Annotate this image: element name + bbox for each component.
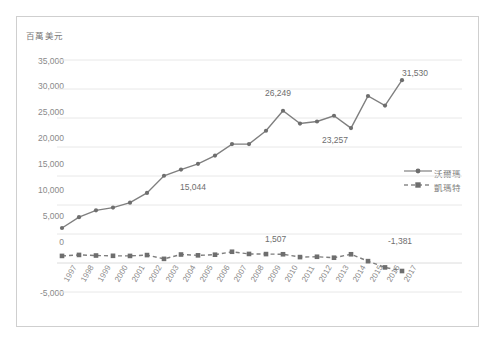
data-point-marker xyxy=(213,252,218,257)
data-point-marker xyxy=(196,253,201,258)
legend-marker-kmart xyxy=(415,182,420,187)
data-point-marker xyxy=(383,103,387,107)
data-point-marker xyxy=(162,174,166,178)
data-point-marker xyxy=(332,255,337,260)
data-point-marker xyxy=(162,257,167,262)
data-point-marker xyxy=(315,119,319,123)
data-point-marker xyxy=(230,249,235,254)
data-point-marker xyxy=(298,121,302,125)
chart-figure: 百萬美元 35,000 30,000 25,000 20,000 15,000 … xyxy=(0,0,495,343)
data-point-marker xyxy=(383,265,388,270)
data-point-marker xyxy=(128,254,133,259)
data-point-marker xyxy=(145,191,149,195)
data-point-marker xyxy=(94,253,99,258)
data-point-marker xyxy=(230,142,234,146)
data-point-marker xyxy=(332,114,336,118)
data-point-marker xyxy=(77,215,81,219)
chart-plot-area xyxy=(0,0,495,343)
data-point-marker xyxy=(247,252,252,257)
gridlines xyxy=(57,60,462,292)
data-point-marker xyxy=(77,253,82,258)
data-point-marker xyxy=(281,252,286,257)
data-point-marker xyxy=(349,126,353,130)
data-point-marker xyxy=(179,167,183,171)
data-point-marker xyxy=(349,252,354,257)
data-point-marker xyxy=(111,205,115,209)
data-point-marker xyxy=(400,78,404,82)
data-point-marker xyxy=(366,259,371,264)
data-point-marker xyxy=(128,201,132,205)
data-point-marker xyxy=(213,153,217,157)
data-point-marker xyxy=(366,94,370,98)
data-point-marker xyxy=(400,269,405,274)
data-point-marker xyxy=(111,254,116,259)
legend-marker-walmart xyxy=(416,169,421,174)
data-point-marker xyxy=(264,129,268,133)
data-point-marker xyxy=(298,255,303,260)
data-point-marker xyxy=(247,142,251,146)
data-point-marker xyxy=(264,252,269,257)
data-point-marker xyxy=(315,254,320,259)
data-point-marker xyxy=(281,109,285,113)
data-point-marker xyxy=(179,252,184,257)
data-point-marker xyxy=(94,208,98,212)
data-point-marker xyxy=(60,254,65,259)
data-point-marker xyxy=(145,253,150,258)
data-point-marker xyxy=(196,162,200,166)
data-point-marker xyxy=(60,226,64,230)
legend-marks xyxy=(404,169,432,188)
